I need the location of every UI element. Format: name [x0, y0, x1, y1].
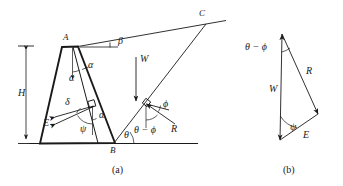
angle-label-alpha-mid: α	[99, 110, 104, 120]
force-R-vector-a	[147, 104, 176, 124]
force-label-W-b: W	[269, 84, 277, 94]
force-triangle-b	[279, 34, 318, 140]
angle-label-beta: β	[118, 36, 123, 46]
theta-minus-phi-arc-a	[146, 115, 158, 120]
angle-label-alpha-top: α	[88, 60, 93, 70]
failure-plane-line	[114, 24, 206, 143]
angle-label-psi-a: ψ	[80, 124, 86, 134]
angle-label-alpha-inner: α	[69, 73, 74, 83]
point-label-C: C	[199, 9, 205, 18]
alpha-mid-arc-a	[93, 119, 97, 121]
point-label-A: A	[63, 33, 69, 42]
angle-label-psi-b: ψ	[290, 122, 296, 132]
force-E-vector-a	[55, 106, 94, 124]
panel-caption-a: (a)	[112, 165, 123, 175]
angle-label-delta: δ	[65, 97, 70, 107]
angle-label-theta-minus-phi-a: θ − ϕ	[134, 125, 156, 135]
backfill-surface-line	[78, 21, 226, 47]
angle-label-theta-a: θ	[124, 130, 129, 140]
figure-container: A B C β α α α δ E ψ W ϕ θ − ϕ R θ H (a) …	[0, 0, 343, 186]
point-label-B: B	[110, 146, 116, 155]
phi-arc-a	[159, 106, 161, 112]
panel-caption-b: (b)	[283, 165, 295, 175]
force-label-E-b: E	[303, 130, 309, 140]
force-label-R-a: R	[171, 124, 177, 134]
force-label-R-b: R	[306, 66, 312, 76]
angle-label-phi-a: ϕ	[163, 99, 168, 109]
retaining-wall-outline	[40, 47, 115, 144]
dimension-label-H: H	[18, 88, 25, 98]
angle-label-theta-minus-phi-b: θ − ϕ	[245, 42, 267, 52]
force-label-E-a: E	[43, 118, 49, 128]
force-label-W-a: W	[140, 54, 148, 64]
figure-drawing	[0, 0, 343, 186]
